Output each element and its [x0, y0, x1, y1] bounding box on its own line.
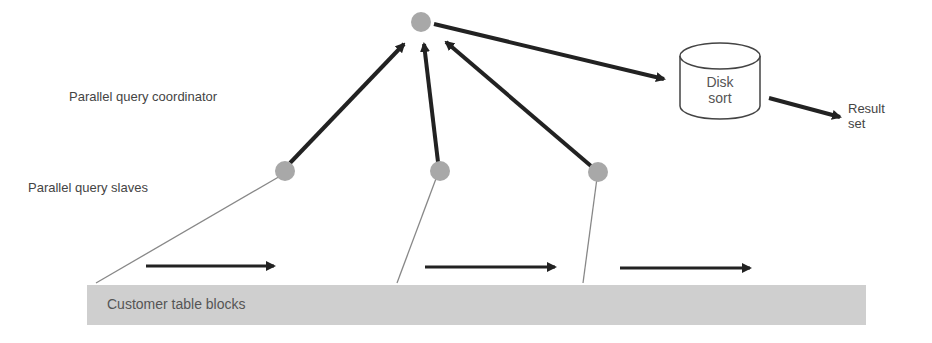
disk-sort-line2: sort: [700, 90, 740, 106]
result-set-line2: set: [848, 116, 885, 131]
slave3-to-coordinator-arrow: [446, 42, 591, 166]
disk-sort-label: Disk sort: [700, 74, 740, 106]
coordinator-label: Parallel query coordinator: [69, 89, 217, 104]
customer-table-bar: Customer table blocks: [87, 285, 866, 325]
disk-sort-line1: Disk: [700, 74, 740, 90]
slave1-to-coordinator-arrow: [290, 44, 404, 163]
result-set-line1: Result: [848, 101, 885, 116]
slave-node-3: [588, 162, 608, 182]
customer-table-label: Customer table blocks: [107, 296, 246, 312]
slaves-label: Parallel query slaves: [28, 180, 148, 195]
disk-to-result-arrow: [769, 98, 840, 117]
coordinator-to-disk-arrow: [434, 24, 664, 79]
slave-node-1: [275, 161, 295, 181]
slave2-to-coordinator-arrow: [424, 44, 438, 162]
coordinator-node: [411, 12, 431, 32]
slave-node-2: [430, 161, 450, 181]
result-set-label: Result set: [848, 101, 885, 131]
slave3-scan-line: [583, 178, 597, 283]
